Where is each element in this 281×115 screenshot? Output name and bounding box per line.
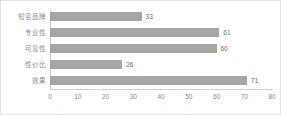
bar xyxy=(50,44,217,53)
category-label: 知名品牌 xyxy=(1,9,46,25)
bar-value-label: 33 xyxy=(146,9,153,25)
x-tick-label: 80 xyxy=(268,93,275,100)
bar xyxy=(50,12,142,21)
category-label: 可靠性 xyxy=(1,41,46,57)
bars-layer: 3361602671 xyxy=(50,9,272,89)
bar-value-label: 61 xyxy=(223,25,230,41)
bar-row: 71 xyxy=(50,73,272,89)
x-tick-label: 70 xyxy=(241,93,248,100)
x-tick-label: 60 xyxy=(213,93,220,100)
bar-row: 26 xyxy=(50,57,272,73)
x-tick-label: 40 xyxy=(157,93,164,100)
bar-row: 60 xyxy=(50,41,272,57)
category-label: 性价比 xyxy=(1,57,46,73)
x-tick-label: 10 xyxy=(74,93,81,100)
x-axis-line xyxy=(50,89,273,90)
x-tick-label: 20 xyxy=(102,93,109,100)
bar xyxy=(50,76,247,85)
bar-value-label: 26 xyxy=(126,57,133,73)
x-tick-label: 30 xyxy=(130,93,137,100)
x-tick-label: 50 xyxy=(185,93,192,100)
bar-row: 61 xyxy=(50,25,272,41)
bar-value-label: 60 xyxy=(221,41,228,57)
category-label: 效果 xyxy=(1,73,46,89)
bar-chart-figure: 知名品牌专业性可靠性性价比效果 3361602671 0102030405060… xyxy=(0,0,281,115)
x-tick-label: 0 xyxy=(48,93,52,100)
bar-row: 33 xyxy=(50,9,272,25)
bar xyxy=(50,60,122,69)
category-label: 专业性 xyxy=(1,25,46,41)
bar xyxy=(50,28,219,37)
bar-value-label: 71 xyxy=(251,73,258,89)
